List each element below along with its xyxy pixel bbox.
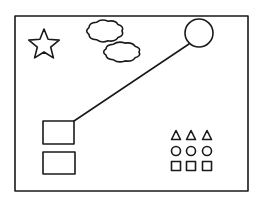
diagram-canvas xyxy=(0,0,261,197)
cloud-icon xyxy=(104,42,140,62)
triangle-icon xyxy=(203,131,212,140)
circle-icon xyxy=(187,147,196,156)
square-icon xyxy=(172,162,181,171)
circle-icon xyxy=(203,147,212,156)
circle-shape xyxy=(185,19,213,47)
cloud-icon xyxy=(87,20,123,42)
shape-grid xyxy=(172,131,212,171)
clouds-group xyxy=(87,20,140,62)
square-icon xyxy=(187,162,196,171)
rectangle-box-2 xyxy=(43,152,75,174)
star-icon xyxy=(29,29,59,58)
frame-border xyxy=(15,16,248,191)
triangle-icon xyxy=(187,131,196,140)
connector-line xyxy=(74,44,189,121)
triangle-icon xyxy=(172,131,181,140)
square-icon xyxy=(203,162,212,171)
rectangles-group xyxy=(43,121,75,174)
circle-icon xyxy=(172,147,181,156)
rectangle-box-1 xyxy=(43,121,74,144)
